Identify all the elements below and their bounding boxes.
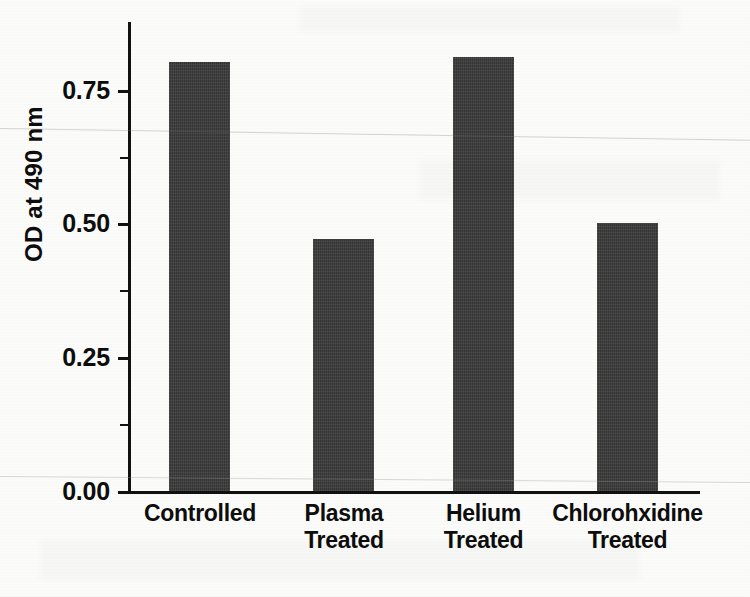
x-label-helium-treated: Helium Treated (418, 500, 549, 553)
scan-smudge (300, 6, 680, 32)
x-label-controlled-line1: Controlled (144, 500, 256, 526)
bar-helium-treated[interactable] (453, 57, 514, 491)
x-label-plasma-treated: Plasma Treated (277, 500, 411, 553)
y-minor-tick-0.125 (120, 424, 129, 426)
y-tick-label-0.00: 0.00 (14, 477, 110, 506)
bar-plasma-treated[interactable] (313, 239, 374, 491)
x-label-controlled: Controlled (119, 500, 281, 527)
y-tick-label-0.50: 0.50 (14, 209, 110, 238)
scan-streak-upper (0, 128, 750, 141)
y-tick-label-0.75: 0.75 (14, 76, 110, 105)
y-minor-tick-0.375 (120, 290, 129, 292)
y-tick-0.50 (118, 223, 129, 226)
x-label-plasma-line2: Treated (277, 527, 411, 554)
y-tick-0.75 (118, 90, 129, 93)
x-label-helium-line2: Treated (418, 527, 549, 554)
x-axis-line (128, 491, 700, 494)
x-label-chlorohxidine-line1: Chlorohxidine (552, 500, 703, 526)
bar-chlorohxidine-treated[interactable] (597, 223, 658, 491)
y-tick-0.00 (118, 491, 129, 494)
y-axis-title: OD at 490 nm (20, 84, 48, 284)
y-minor-tick-0.625 (120, 157, 129, 159)
x-label-chlorohxidine-line2: Treated (545, 527, 710, 554)
x-label-helium-line1: Helium (446, 500, 521, 526)
bar-chart-figure: OD at 490 nm 0.00 0.25 0.50 0.75 Control… (0, 0, 750, 597)
y-tick-label-0.25: 0.25 (14, 343, 110, 372)
x-label-plasma-line1: Plasma (305, 500, 384, 526)
x-label-chlorohxidine-treated: Chlorohxidine Treated (545, 500, 710, 553)
bar-controlled[interactable] (169, 62, 230, 491)
y-tick-0.25 (118, 357, 129, 360)
